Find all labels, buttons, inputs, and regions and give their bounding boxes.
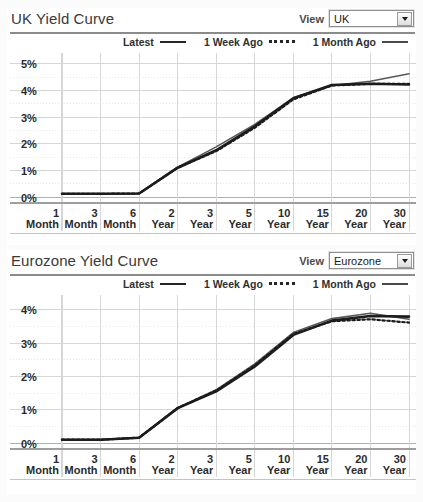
svg-text:Year: Year <box>229 464 253 476</box>
uk-panel-header: UK Yield Curve View UK <box>7 8 416 34</box>
svg-text:Year: Year <box>229 218 253 230</box>
legend-line-solid-thin-icon <box>382 41 408 43</box>
ez-view-control: View Eurozone <box>299 252 414 269</box>
ez-legend-item-month: 1 Month Ago <box>313 278 408 290</box>
ez-chart: 0%1%2%3%4%1Month3Month6Month2Year3Year5Y… <box>7 291 416 487</box>
svg-text:Year: Year <box>383 464 407 476</box>
svg-text:Month: Month <box>65 464 98 476</box>
uk-chart: 0%1%2%3%4%5%1Month3Month6Month2Year3Year… <box>7 49 416 239</box>
ez-panel-title: Eurozone Yield Curve <box>11 252 158 269</box>
eurozone-yield-curve-panel: Eurozone Yield Curve View Eurozone Lates… <box>7 250 416 494</box>
svg-text:Year: Year <box>151 218 175 230</box>
ez-legend-label-week: 1 Week Ago <box>204 278 263 290</box>
svg-text:Month: Month <box>26 218 59 230</box>
svg-text:Month: Month <box>65 218 98 230</box>
uk-panel-title: UK Yield Curve <box>11 10 114 27</box>
svg-text:3%: 3% <box>21 112 37 124</box>
uk-view-select[interactable]: UK <box>329 10 414 27</box>
svg-text:Year: Year <box>306 464 330 476</box>
ez-legend: Latest 1 Week Ago 1 Month Ago <box>7 276 416 291</box>
svg-text:Year: Year <box>383 218 407 230</box>
svg-text:1%: 1% <box>21 404 37 416</box>
chevron-down-icon[interactable] <box>397 12 412 26</box>
svg-text:Year: Year <box>190 464 214 476</box>
ez-view-label: View <box>299 255 324 267</box>
svg-text:Year: Year <box>344 218 368 230</box>
uk-legend-item-week: 1 Week Ago <box>204 36 295 48</box>
svg-text:3%: 3% <box>21 338 37 350</box>
ez-legend-item-latest: Latest <box>123 278 186 290</box>
uk-legend-item-month: 1 Month Ago <box>313 36 408 48</box>
yield-curve-page: UK Yield Curve View UK Latest 1 Week Ago <box>0 0 423 502</box>
legend-line-dotted-icon <box>269 40 295 43</box>
svg-text:Year: Year <box>151 464 175 476</box>
uk-yield-curve-panel: UK Yield Curve View UK Latest 1 Week Ago <box>7 8 416 245</box>
ez-view-select-value: Eurozone <box>334 255 381 267</box>
svg-text:Year: Year <box>344 464 368 476</box>
svg-text:Month: Month <box>103 464 136 476</box>
svg-text:Month: Month <box>103 218 136 230</box>
uk-view-label: View <box>299 13 324 25</box>
ez-chart-plot: 0%1%2%3%4%1Month3Month6Month2Year3Year5Y… <box>7 291 416 487</box>
svg-text:Year: Year <box>267 464 291 476</box>
svg-text:2%: 2% <box>21 138 37 150</box>
uk-view-select-value: UK <box>334 13 349 25</box>
uk-legend-label-month: 1 Month Ago <box>313 36 376 48</box>
legend-line-solid-icon <box>160 283 186 285</box>
uk-chart-plot: 0%1%2%3%4%5%1Month3Month6Month2Year3Year… <box>7 49 416 239</box>
svg-text:1%: 1% <box>21 165 37 177</box>
uk-view-control: View UK <box>299 10 414 27</box>
svg-text:4%: 4% <box>21 304 37 316</box>
svg-text:Year: Year <box>306 218 330 230</box>
ez-legend-label-latest: Latest <box>123 278 154 290</box>
svg-text:Year: Year <box>267 218 291 230</box>
svg-text:Month: Month <box>26 464 59 476</box>
chevron-down-icon[interactable] <box>397 254 412 268</box>
uk-legend: Latest 1 Week Ago 1 Month Ago <box>7 34 416 49</box>
legend-line-solid-icon <box>160 41 186 43</box>
ez-legend-item-week: 1 Week Ago <box>204 278 295 290</box>
uk-legend-item-latest: Latest <box>123 36 186 48</box>
svg-text:4%: 4% <box>21 85 37 97</box>
ez-legend-label-month: 1 Month Ago <box>313 278 376 290</box>
ez-view-select[interactable]: Eurozone <box>329 252 414 269</box>
svg-text:Year: Year <box>190 218 214 230</box>
uk-legend-label-week: 1 Week Ago <box>204 36 263 48</box>
svg-text:0%: 0% <box>21 192 37 204</box>
svg-text:5%: 5% <box>21 58 37 70</box>
legend-line-solid-thin-icon <box>382 283 408 285</box>
legend-line-dotted-icon <box>269 282 295 285</box>
ez-panel-header: Eurozone Yield Curve View Eurozone <box>7 250 416 276</box>
svg-text:0%: 0% <box>21 438 37 450</box>
uk-legend-label-latest: Latest <box>123 36 154 48</box>
svg-text:2%: 2% <box>21 371 37 383</box>
